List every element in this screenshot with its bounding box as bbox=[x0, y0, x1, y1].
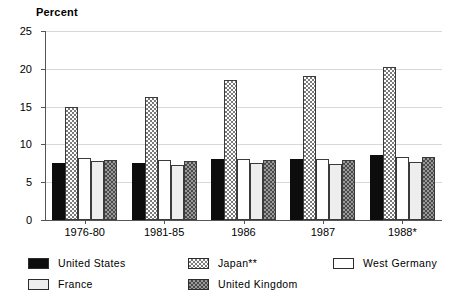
bar-wg bbox=[158, 160, 171, 220]
bar-fr bbox=[250, 163, 263, 220]
bar-uk bbox=[263, 160, 276, 220]
x-axis-tick-label: 1976-80 bbox=[45, 226, 124, 238]
x-axis-tick-label: 1986 bbox=[204, 226, 283, 238]
bar-group bbox=[370, 31, 435, 220]
bar-wg bbox=[78, 158, 91, 220]
bar-uk bbox=[184, 161, 197, 220]
bar-wg bbox=[316, 159, 329, 220]
y-axis-tick-label: 10 bbox=[0, 139, 32, 150]
bar-wg bbox=[237, 159, 250, 220]
x-axis-tick-label: 1981-85 bbox=[124, 226, 203, 238]
bar-jp bbox=[303, 76, 316, 220]
y-axis-line bbox=[45, 31, 46, 220]
legend-item: United States bbox=[28, 256, 126, 271]
y-axis-tick-label: 20 bbox=[0, 64, 32, 75]
bar-uk bbox=[342, 160, 355, 220]
legend-swatch-wg bbox=[333, 258, 354, 269]
bar-fr bbox=[171, 165, 184, 220]
bar-chart-figure: Percent 0510152025 United StatesFranceJa… bbox=[0, 0, 452, 301]
bar-group bbox=[132, 31, 197, 220]
bar-fr bbox=[91, 161, 104, 220]
bar-uk bbox=[422, 157, 435, 220]
bar-us bbox=[132, 163, 145, 220]
legend-swatch-fr bbox=[28, 279, 49, 290]
bar-group bbox=[52, 31, 117, 220]
bar-jp bbox=[383, 67, 396, 220]
y-axis-tick-label: 25 bbox=[0, 26, 32, 37]
y-axis-tick-label: 5 bbox=[0, 177, 32, 188]
legend-label: West Germany bbox=[363, 258, 437, 269]
legend-item: West Germany bbox=[333, 256, 437, 271]
y-axis-tick-mark bbox=[41, 107, 45, 108]
x-axis-tick-mark bbox=[323, 220, 324, 224]
legend-swatch-uk bbox=[188, 279, 209, 290]
bar-us bbox=[290, 159, 303, 220]
x-axis-tick-mark bbox=[85, 220, 86, 224]
bar-group bbox=[211, 31, 276, 220]
bar-us bbox=[370, 155, 383, 220]
x-axis-tick-mark bbox=[402, 220, 403, 224]
bar-fr bbox=[329, 164, 342, 220]
x-axis-tick-label: 1987 bbox=[283, 226, 362, 238]
legend-swatch-jp bbox=[188, 258, 209, 269]
legend-item: United Kingdom bbox=[188, 277, 298, 292]
legend-label: United States bbox=[58, 258, 126, 269]
y-axis-tick-mark bbox=[41, 69, 45, 70]
legend-label: France bbox=[58, 279, 93, 290]
bar-us bbox=[52, 163, 65, 220]
bar-jp bbox=[224, 80, 237, 220]
chart-legend: United StatesFranceJapan**United Kingdom… bbox=[28, 256, 443, 296]
bar-fr bbox=[409, 162, 422, 220]
bar-jp bbox=[145, 97, 158, 220]
y-axis-tick-mark bbox=[41, 144, 45, 145]
plot-area bbox=[45, 31, 442, 220]
legend-item: Japan** bbox=[188, 256, 257, 271]
x-axis-tick-mark bbox=[164, 220, 165, 224]
y-axis-tick-mark bbox=[41, 220, 45, 221]
legend-swatch-us bbox=[28, 258, 49, 269]
y-axis-tick-label: 15 bbox=[0, 102, 32, 113]
y-axis-tick-label: 0 bbox=[0, 215, 32, 226]
legend-item: France bbox=[28, 277, 93, 292]
legend-label: Japan** bbox=[218, 258, 257, 269]
bar-uk bbox=[104, 160, 117, 220]
legend-label: United Kingdom bbox=[218, 279, 298, 290]
x-axis-tick-mark bbox=[244, 220, 245, 224]
bar-jp bbox=[65, 107, 78, 220]
x-axis-tick-label: 1988* bbox=[363, 226, 442, 238]
y-axis-tick-mark bbox=[41, 182, 45, 183]
y-axis-tick-labels: 0510152025 bbox=[0, 31, 40, 220]
bar-wg bbox=[396, 157, 409, 220]
bar-us bbox=[211, 159, 224, 220]
bar-group bbox=[290, 31, 355, 220]
y-axis-title: Percent bbox=[36, 6, 78, 18]
y-axis-tick-mark bbox=[41, 31, 45, 32]
